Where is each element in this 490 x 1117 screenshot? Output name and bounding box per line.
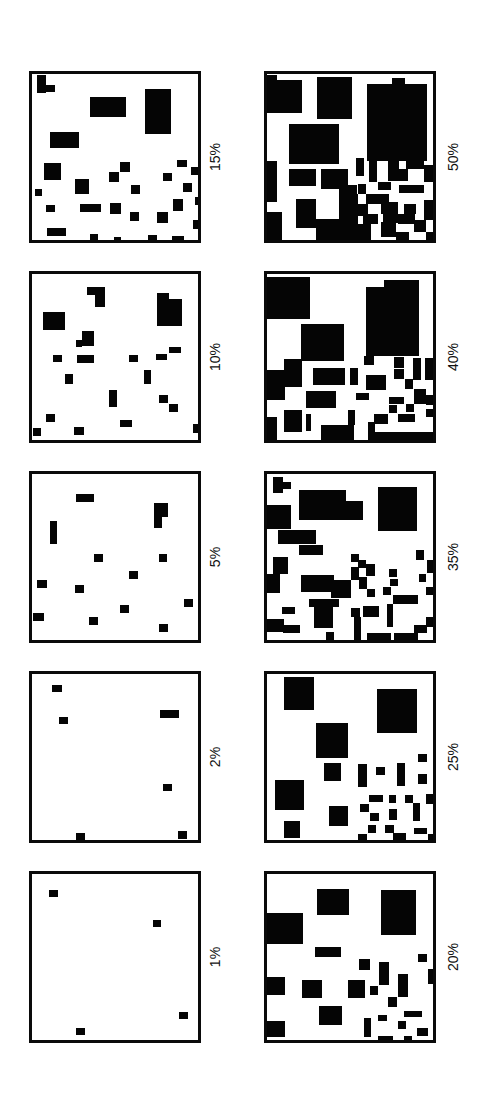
black-block [80, 204, 101, 212]
black-block [283, 482, 291, 489]
black-block [381, 890, 416, 935]
black-block [191, 167, 199, 175]
map-panel-p50 [264, 71, 436, 243]
black-block [404, 1011, 422, 1017]
black-block [82, 331, 94, 346]
map-area [32, 674, 198, 840]
map-area [267, 474, 433, 640]
black-block [367, 633, 391, 643]
map-area [267, 674, 433, 840]
black-block [314, 607, 333, 628]
black-block [394, 357, 404, 368]
black-block [398, 974, 408, 997]
black-block [388, 169, 408, 181]
black-block [392, 78, 405, 84]
black-block [90, 234, 98, 243]
black-block [316, 723, 348, 758]
black-block [129, 355, 138, 362]
black-block [267, 574, 280, 593]
black-block [46, 205, 55, 212]
coverage-label: 50% [444, 127, 462, 187]
black-block [267, 913, 303, 944]
map-panel-p10 [29, 271, 201, 443]
map-panel-p35 [264, 471, 436, 643]
black-block [87, 287, 105, 295]
black-block [183, 183, 192, 192]
black-block [359, 577, 367, 589]
black-block [385, 825, 394, 833]
black-block [114, 237, 121, 243]
black-block [426, 395, 434, 405]
black-block [358, 224, 371, 243]
black-block [366, 375, 386, 390]
black-block [267, 75, 277, 81]
black-block [267, 212, 282, 243]
black-block [46, 414, 55, 422]
black-block [284, 410, 302, 432]
map-area [32, 874, 198, 1040]
black-block [50, 132, 79, 148]
black-block [398, 414, 415, 422]
black-block [284, 359, 302, 387]
black-block [389, 569, 397, 577]
black-block [289, 169, 316, 186]
black-block [76, 1028, 85, 1035]
black-block [44, 163, 61, 180]
black-block [368, 825, 376, 833]
black-block [424, 200, 434, 220]
black-block [301, 575, 334, 592]
black-block [159, 554, 167, 562]
map-area [32, 74, 198, 240]
black-block [388, 159, 399, 169]
black-block [426, 409, 434, 417]
black-block [326, 632, 334, 643]
black-block [378, 182, 391, 190]
black-block [346, 501, 363, 520]
black-block [394, 369, 404, 379]
map-area [267, 874, 433, 1040]
black-block [416, 550, 424, 560]
black-block [193, 424, 199, 433]
black-block [369, 795, 383, 802]
black-block [110, 203, 121, 214]
black-block [317, 889, 349, 915]
black-block [53, 355, 62, 362]
black-block [354, 617, 361, 643]
black-block [37, 85, 55, 92]
black-block [404, 1036, 412, 1043]
coverage-label: 2% [206, 727, 224, 787]
black-block [302, 980, 322, 998]
black-block [428, 834, 434, 843]
black-block [301, 324, 344, 361]
black-block [275, 780, 304, 810]
coverage-label: 15% [206, 127, 224, 187]
black-block [193, 220, 199, 229]
black-block [37, 580, 47, 588]
black-block [109, 172, 119, 182]
black-block [283, 625, 300, 633]
black-block [384, 280, 419, 287]
black-block [299, 545, 323, 555]
black-block [319, 1006, 342, 1025]
black-block [383, 587, 391, 595]
black-block [267, 161, 277, 202]
black-block [50, 521, 57, 544]
map-panel-p15 [29, 71, 201, 243]
black-block [348, 980, 365, 998]
black-block [424, 165, 434, 182]
black-block [184, 599, 193, 607]
black-block [90, 97, 126, 117]
black-block [417, 1028, 428, 1036]
black-block [358, 560, 366, 568]
black-block [154, 503, 168, 517]
map-panel-p40 [264, 271, 436, 443]
black-block [389, 397, 404, 404]
black-block [267, 1021, 285, 1037]
black-block [267, 370, 285, 400]
black-block [296, 199, 316, 228]
black-block [159, 395, 168, 403]
coverage-label: 1% [206, 927, 224, 987]
black-block [273, 477, 283, 493]
black-block [76, 340, 82, 347]
black-block [77, 355, 94, 363]
